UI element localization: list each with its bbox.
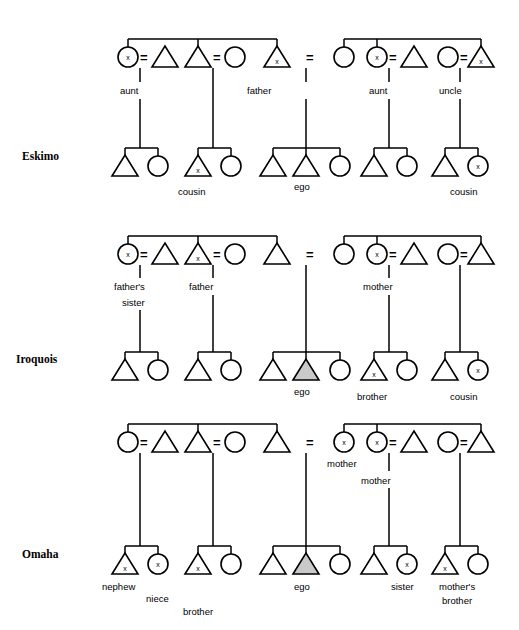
eskimo-g2-male-3 — [361, 155, 387, 176]
label-omaha-mother-lower: mother — [361, 475, 391, 486]
label-iroquois-cousin: cousin — [450, 391, 477, 402]
eskimo-g1-male-uncle-left — [185, 46, 211, 67]
iroquois-g1-female-spouse-left — [225, 244, 245, 264]
x-mark: x — [375, 54, 379, 61]
eskimo-g2-female-2 — [221, 156, 241, 176]
marriage-symbol: = — [213, 435, 221, 450]
label-omaha-niece: niece — [146, 593, 169, 604]
x-mark: x — [479, 58, 483, 65]
x-mark: x — [476, 163, 480, 170]
omaha-g2-female-sibling — [330, 554, 350, 574]
row-label-eskimo: Eskimo — [22, 150, 59, 162]
omaha-g2-female-4 — [468, 554, 488, 574]
iroquois-g1-female-spouse-far-right — [438, 244, 458, 264]
row-eskimo: Eskimo x = = x = x = = x — [22, 39, 494, 197]
label-omaha-ego: ego — [294, 581, 310, 592]
eskimo-g1-male-spouse-left — [152, 46, 178, 67]
x-mark: x — [405, 561, 409, 568]
iroquois-g2-female-3 — [397, 360, 417, 380]
x-mark: x — [443, 565, 447, 572]
omaha-g2-female-2 — [221, 554, 241, 574]
iroquois-g2-male-1 — [112, 359, 138, 380]
marriage-symbol: = — [140, 435, 148, 450]
eskimo-g2-male-1 — [112, 155, 138, 176]
x-mark: x — [375, 251, 379, 258]
eskimo-g1-female-mother — [334, 47, 354, 67]
x-mark: x — [156, 561, 160, 568]
marriage-symbol: = — [389, 247, 397, 262]
omaha-g1-male-far-right — [468, 431, 494, 452]
label-iroquois-father: father — [189, 281, 213, 292]
x-mark: x — [196, 167, 200, 174]
iroquois-g2-female-sibling — [330, 360, 350, 380]
x-mark: x — [375, 439, 379, 446]
label-iroquois-fathers-sister-1: father's — [114, 281, 145, 292]
eskimo-g1-male-spouse-right — [401, 46, 427, 67]
label-eskimo-ego: ego — [294, 181, 310, 192]
label-eskimo-uncle: uncle — [439, 85, 462, 96]
iroquois-g1-male-uncle-center — [264, 243, 290, 264]
label-iroquois-ego: ego — [294, 386, 310, 397]
row-label-iroquois: Iroquois — [16, 353, 58, 366]
eskimo-g2-female-1 — [148, 156, 168, 176]
marriage-symbol-center: = — [306, 435, 314, 450]
x-mark: x — [196, 255, 200, 262]
iroquois-g1-male-spouse-left — [152, 243, 178, 264]
eskimo-g2-male-sibling — [260, 155, 286, 176]
label-iroquois-fathers-sister-2: sister — [122, 297, 145, 308]
marriage-symbol: = — [140, 247, 148, 262]
iroquois-g1-male-far-right — [468, 243, 494, 264]
x-mark: x — [126, 54, 130, 61]
label-omaha-brother: brother — [183, 606, 213, 617]
x-mark: x — [126, 251, 130, 258]
label-iroquois-brother: brother — [357, 391, 387, 402]
eskimo-g2-male-ego — [293, 155, 319, 176]
marriage-symbol: = — [460, 435, 468, 450]
label-iroquois-mother: mother — [363, 281, 393, 292]
label-omaha-mother-upper: mother — [327, 458, 357, 469]
eskimo-g1-female-spouse-uncle — [438, 47, 458, 67]
row-omaha: Omaha = = = x x = = — [22, 424, 494, 617]
iroquois-g2-male-2 — [185, 359, 211, 380]
iroquois-g2-male-sibling — [260, 359, 286, 380]
label-omaha-nephew: nephew — [102, 581, 135, 592]
marriage-symbol: = — [389, 435, 397, 450]
row-iroquois: Iroquois x = x = = x = = — [16, 236, 494, 402]
label-omaha-mothers-brother-1: mother's — [439, 581, 475, 592]
x-mark: x — [372, 371, 376, 378]
x-mark: x — [123, 565, 127, 572]
label-eskimo-cousin-right: cousin — [450, 186, 477, 197]
marriage-symbol: = — [389, 50, 397, 65]
label-eskimo-aunt-left: aunt — [120, 85, 139, 96]
iroquois-g2-male-4 — [432, 359, 458, 380]
omaha-g1-female-far-right — [438, 432, 458, 452]
iroquois-g2-male-ego — [293, 359, 319, 380]
kinship-diagram-figure: Eskimo x = = x = x = = x — [0, 0, 519, 630]
eskimo-g2-male-4 — [432, 155, 458, 176]
omaha-g1-male-center — [264, 431, 290, 452]
iroquois-g2-female-2 — [221, 360, 241, 380]
eskimo-g1-female-spouse-left — [225, 47, 245, 67]
omaha-g1-male-spouse-left — [152, 431, 178, 452]
omaha-g2-male-sibling — [260, 553, 286, 574]
omaha-g2-male-3 — [361, 553, 387, 574]
omaha-g1-male-father — [185, 431, 211, 452]
eskimo-g2-female-sibling — [330, 156, 350, 176]
marriage-symbol-center: = — [306, 50, 314, 65]
omaha-g1-female-left — [118, 432, 138, 452]
marriage-symbol: = — [460, 50, 468, 65]
omaha-g1-female-spouse-left — [225, 432, 245, 452]
marriage-symbol: = — [140, 50, 148, 65]
marriage-symbol: = — [213, 247, 221, 262]
omaha-g1-male-spouse-right — [401, 431, 427, 452]
omaha-g2-male-ego — [293, 553, 319, 574]
marriage-symbol-center: = — [306, 247, 314, 262]
row-label-omaha: Omaha — [22, 548, 59, 560]
x-mark: x — [476, 367, 480, 374]
marriage-symbol: = — [460, 247, 468, 262]
label-eskimo-cousin-left: cousin — [178, 186, 205, 197]
x-mark: x — [342, 439, 346, 446]
iroquois-g2-female-1 — [148, 360, 168, 380]
eskimo-g2-female-3 — [397, 156, 417, 176]
label-eskimo-aunt-right: aunt — [369, 85, 388, 96]
